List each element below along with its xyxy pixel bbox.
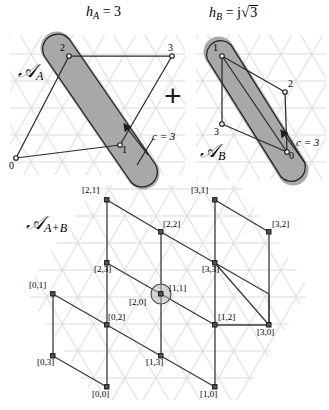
h-a-value: = 3 (103, 4, 121, 19)
set-label-b: 𝒜B (200, 140, 225, 164)
lattice-sum-figure: hA = 3 hB = j√3 𝒜A 𝒜B + c = 3 c = 3 0 1 … (0, 0, 329, 410)
h-b-subscript: B (216, 11, 222, 22)
node-label-0-1: [0,1] (29, 280, 46, 290)
node-label-2-2: [2,2] (163, 219, 180, 229)
node-label-1-3: [1,3] (146, 357, 163, 367)
node-label-2-3: [2,3] (94, 264, 111, 274)
script-b-glyph: 𝒜 (200, 140, 218, 161)
panel-b-title: hB = j√3 (209, 4, 258, 22)
node-label-b-0: 0 (289, 150, 294, 161)
node-label-a-2: 2 (60, 42, 65, 53)
node-label-2-1: [2,1] (82, 185, 99, 195)
node-label-0-3: [0,3] (37, 357, 54, 367)
node-label-2-0: [2,0] (129, 297, 146, 307)
plus-operator: + (164, 79, 182, 113)
node-label-1-0: [1,0] (200, 389, 217, 399)
script-a-subscript: A (36, 69, 43, 83)
node-label-3-1: [3,1] (191, 185, 208, 195)
node-label-b-1: 1 (213, 42, 218, 53)
node-label-1-2: [1,2] (218, 312, 235, 322)
panel-a-title: hA = 3 (86, 4, 121, 21)
node-label-b-2: 2 (288, 78, 293, 89)
h-a-subscript: A (93, 10, 99, 21)
script-ab-subscript: A+B (44, 221, 67, 235)
figure-canvas (0, 0, 329, 410)
node-label-0-0: [0,0] (92, 389, 109, 399)
node-label-a-0: 0 (9, 160, 14, 171)
h-b-value: = j (226, 5, 241, 20)
node-label-b-3: 3 (214, 126, 219, 137)
script-ab-glyph: 𝒜 (26, 212, 44, 233)
node-label-3-0: [3,0] (257, 327, 274, 337)
node-label-3-2: [3,2] (272, 219, 289, 229)
panel-b-c-label: c = 3 (296, 136, 319, 148)
node-label-0-2: [0,2] (108, 312, 125, 322)
script-a-glyph: 𝒜 (18, 60, 36, 81)
node-label-a-1: 1 (122, 144, 127, 155)
node-label-a-3: 3 (168, 42, 173, 53)
script-b-subscript: B (218, 149, 225, 163)
h-b-radicand: 3 (249, 5, 258, 21)
h-a-symbol: h (86, 4, 93, 19)
set-label-a: 𝒜A (18, 60, 43, 84)
node-label-3-3: [3,3] (202, 264, 219, 274)
h-b-symbol: h (209, 5, 216, 20)
panel-a-c-label: c = 3 (152, 130, 175, 142)
set-label-a-plus-b: 𝒜A+B (26, 212, 67, 236)
node-label-1-1: [1,1] (169, 283, 186, 293)
